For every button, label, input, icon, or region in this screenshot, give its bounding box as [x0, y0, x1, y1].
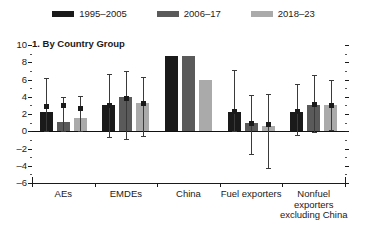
y-axis-minor-tick-right	[345, 88, 347, 89]
error-bar-marker	[124, 96, 129, 101]
error-bar-cap-high	[44, 78, 49, 79]
bar	[199, 80, 212, 132]
error-bar-cap-low	[124, 139, 129, 140]
y-axis-minor-tick-right	[345, 174, 347, 175]
error-bar-marker	[249, 121, 254, 126]
y-axis-tick-label: 2	[22, 109, 27, 119]
y-axis-tick-right	[345, 131, 349, 132]
legend-label: 2006–17	[184, 9, 221, 19]
y-axis-tick-label: 8	[22, 58, 27, 68]
legend-label: 1995–2005	[79, 9, 127, 19]
legend-swatch-icon	[157, 11, 179, 17]
y-axis-minor-tick-right	[345, 140, 347, 141]
error-bar-line	[63, 97, 64, 132]
y-axis-tick-label: –6	[16, 178, 27, 188]
legend-item-2018-23: 2018–23	[251, 9, 315, 19]
error-bar-cap-low	[232, 131, 237, 132]
legend-swatch-icon	[251, 11, 273, 17]
error-bar-cap-low	[266, 168, 271, 169]
error-bar-cap-high	[107, 74, 112, 75]
y-axis-tick-right	[345, 114, 349, 115]
error-bar-cap-low	[329, 130, 334, 131]
bar	[165, 56, 178, 131]
x-axis-tick	[32, 183, 33, 187]
y-axis-tick-label: 0	[22, 127, 27, 137]
y-axis-tick-right	[345, 45, 349, 46]
error-bar-cap-high	[312, 75, 317, 76]
error-bar-marker	[232, 109, 237, 114]
x-axis-category-label-line: excluding China	[270, 210, 357, 221]
bar-group	[32, 45, 95, 183]
error-bar-cap-high	[61, 97, 66, 98]
y-axis-tick-right	[345, 62, 349, 63]
axis-corner-stub	[345, 177, 346, 183]
y-axis-tick-label: 6	[22, 75, 27, 85]
legend-item-2006-17: 2006–17	[157, 9, 221, 19]
error-bar-cap-high	[249, 95, 254, 96]
bar-group	[157, 45, 220, 183]
error-bar-cap-low	[141, 136, 146, 137]
error-bar-cap-high	[295, 84, 300, 85]
axis-corner-stub	[32, 177, 33, 183]
error-bar-line	[80, 96, 81, 131]
error-bar-cap-low	[312, 132, 317, 133]
x-axis-category-label-line: Nonfuel	[270, 189, 357, 200]
x-axis-tick	[345, 183, 346, 187]
error-bar-marker	[61, 103, 66, 108]
x-axis-tick	[220, 183, 221, 187]
error-bar-line	[126, 71, 127, 139]
x-axis-tick	[282, 183, 283, 187]
error-bar-marker	[266, 122, 271, 127]
error-bar-cap-low	[61, 131, 66, 132]
error-bar-marker	[44, 104, 49, 109]
y-axis-minor-tick-right	[345, 157, 347, 158]
y-axis-tick-label: 4	[22, 92, 27, 102]
legend-swatch-icon	[52, 11, 74, 17]
y-axis-tick-right	[345, 149, 349, 150]
error-bar-cap-low	[107, 137, 112, 138]
y-axis-minor-tick-right	[345, 123, 347, 124]
error-bar-marker	[329, 103, 334, 108]
bar-group	[95, 45, 158, 183]
y-axis-minor-tick-right	[345, 54, 347, 55]
y-axis-tick-right	[345, 97, 349, 98]
error-bar-line	[234, 70, 235, 131]
error-bar-cap-high	[124, 71, 129, 72]
bar	[182, 56, 195, 131]
x-axis-category-label: Nonfuelexportersexcluding China	[270, 189, 357, 221]
plot-area: 1086420–2–4–6	[32, 45, 345, 183]
error-bar-cap-low	[295, 135, 300, 136]
error-bar-cap-high	[78, 96, 83, 97]
x-axis-tick	[157, 183, 158, 187]
chart-figure: 1995–20052006–172018–23 1. By Country Gr…	[0, 0, 367, 227]
error-bar-cap-low	[249, 154, 254, 155]
y-axis-tick-label: –4	[16, 161, 27, 171]
error-bar-cap-high	[141, 77, 146, 78]
y-axis-minor-tick-right	[345, 105, 347, 106]
bar-group	[220, 45, 283, 183]
plot-inner: 1086420–2–4–6	[32, 45, 345, 183]
error-bar-cap-high	[266, 94, 271, 95]
error-bar-marker	[312, 102, 317, 107]
error-bar-line	[143, 77, 144, 137]
error-bar-marker	[295, 109, 300, 114]
error-bar-cap-low	[44, 131, 49, 132]
error-bar-cap-high	[232, 70, 237, 71]
y-axis-tick-right	[345, 166, 349, 167]
x-axis-line	[32, 183, 345, 184]
error-bar-marker	[107, 103, 112, 108]
chart-legend: 1995–20052006–172018–23	[0, 6, 367, 22]
error-bar-cap-high	[329, 80, 334, 81]
error-bar-line	[268, 94, 269, 168]
error-bar-marker	[141, 101, 146, 106]
x-axis-tick	[95, 183, 96, 187]
error-bar-marker	[78, 106, 83, 111]
bar-group	[282, 45, 345, 183]
legend-label: 2018–23	[278, 9, 315, 19]
y-axis-tick-label: –2	[16, 144, 27, 154]
y-axis-tick-right	[345, 80, 349, 81]
legend-item-1995-2005: 1995–2005	[52, 9, 127, 19]
y-axis-tick-label: 10	[16, 40, 27, 50]
error-bar-cap-low	[78, 131, 83, 132]
y-axis-minor-tick-right	[345, 71, 347, 72]
